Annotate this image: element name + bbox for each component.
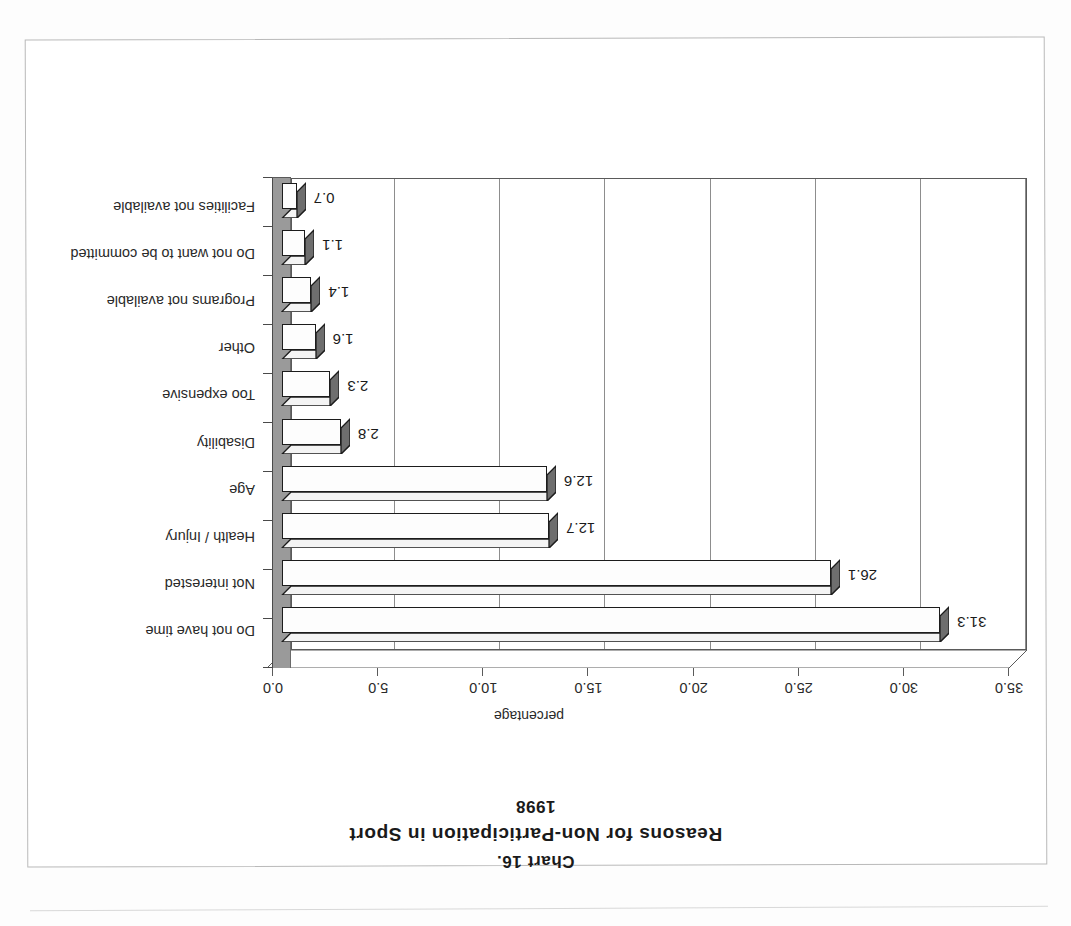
x-axis-tick-mark-3 [587, 668, 588, 676]
category-label-1: Not interested [165, 576, 255, 592]
bar-end-face-1 [831, 560, 840, 595]
bar-end-face-4 [341, 419, 350, 454]
rotated-page-content: Chart 16. Reasons for Non-Participation … [0, 0, 1071, 926]
category-tick-4 [263, 422, 272, 423]
x-axis-title: percentage [259, 708, 799, 724]
x-axis-tick-2: 10.0 [459, 680, 507, 696]
bar-value-label-2: 12.7 [566, 520, 610, 537]
bar-front-face-1 [282, 560, 831, 586]
category-tick-9 [263, 177, 272, 178]
category-tick-0 [263, 618, 272, 619]
bar-front-face-6 [282, 324, 316, 350]
bar-value-label-8: 1.1 [322, 237, 366, 254]
category-label-5: Too expensive [162, 387, 255, 403]
x-axis-tick-7: 35.0 [985, 680, 1033, 696]
category-label-9: Facilities not available [113, 199, 255, 215]
chart-3d-top-plane [277, 650, 1027, 668]
x-axis-tick-4: 20.0 [670, 680, 718, 696]
x-axis-tick-mark-4 [693, 668, 694, 676]
bar-value-label-3: 12.6 [564, 473, 608, 490]
x-axis-tick-mark-0 [272, 668, 273, 676]
bar-front-face-2 [282, 513, 549, 539]
chart-number-label: Chart 16. [0, 848, 1071, 874]
category-tick-1 [263, 569, 272, 570]
bar-7[interactable] [282, 286, 320, 312]
bar-1[interactable] [282, 569, 840, 595]
category-tick-6 [263, 324, 272, 325]
bar-value-label-1: 26.1 [848, 567, 892, 584]
bar-front-face-3 [282, 466, 547, 492]
bar-end-face-5 [330, 371, 339, 406]
bar-value-label-7: 1.4 [328, 284, 372, 301]
bar-3[interactable] [282, 475, 556, 501]
grid-line-7 [1025, 179, 1026, 649]
x-axis-tick-mark-1 [377, 668, 378, 676]
category-label-3: Age [229, 482, 255, 498]
bar-end-face-0 [940, 607, 949, 642]
x-axis-tick-5: 25.0 [775, 680, 823, 696]
category-tick-5 [263, 373, 272, 374]
bar-front-face-0 [282, 607, 940, 633]
bar-2[interactable] [282, 522, 558, 548]
bar-end-face-8 [305, 230, 314, 265]
category-label-2: Health / Injury [166, 529, 255, 545]
bar-front-face-5 [282, 371, 330, 397]
bar-0[interactable] [282, 616, 949, 642]
category-tick-3 [263, 471, 272, 472]
category-axis-line [272, 178, 273, 668]
bar-end-face-6 [316, 324, 325, 359]
bar-6[interactable] [282, 333, 325, 359]
chart-plot-area: percentage 0.05.010.015.020.025.030.035.… [42, 114, 1027, 714]
category-tick-top [263, 667, 272, 668]
bar-front-face-7 [282, 277, 311, 303]
bar-end-face-2 [549, 513, 558, 548]
bar-9[interactable] [282, 192, 306, 218]
bar-value-label-4: 2.8 [358, 426, 402, 443]
bar-top-face-0 [282, 633, 949, 642]
x-axis-tick-mark-7 [1008, 668, 1009, 676]
chart-3d-side-wall-base [271, 177, 291, 178]
category-label-7: Programs not available [107, 293, 255, 309]
bar-end-face-3 [547, 466, 556, 501]
bar-value-label-6: 1.6 [333, 331, 377, 348]
bar-top-face-1 [282, 586, 840, 595]
bar-top-face-3 [282, 492, 556, 501]
chart-title-block: Chart 16. Reasons for Non-Participation … [0, 793, 1071, 874]
bar-value-label-5: 2.3 [347, 378, 391, 395]
bar-end-face-9 [297, 183, 306, 218]
category-label-8: Do not want to be committed [70, 246, 255, 262]
category-tick-2 [263, 520, 272, 521]
category-label-4: Disability [197, 435, 255, 451]
category-label-0: Do not have time [145, 623, 255, 639]
x-axis-tick-mark-6 [903, 668, 904, 676]
bar-top-face-2 [282, 539, 558, 548]
x-axis-tick-0: 0.0 [249, 680, 297, 696]
x-axis-tick-1: 5.0 [354, 680, 402, 696]
scanned-page: Chart 16. Reasons for Non-Participation … [0, 0, 1071, 926]
bar-5[interactable] [282, 380, 339, 406]
bar-8[interactable] [282, 239, 314, 265]
x-axis-tick-6: 30.0 [880, 680, 928, 696]
page-title: Reasons for Non-Participation in Sport [0, 820, 1071, 848]
category-tick-7 [263, 275, 272, 276]
bar-front-face-8 [282, 230, 305, 256]
x-axis-tick-mark-2 [482, 668, 483, 676]
x-axis-tick-3: 15.0 [564, 680, 612, 696]
bar-4[interactable] [282, 428, 350, 454]
bar-front-face-4 [282, 419, 341, 445]
bar-front-face-9 [282, 183, 297, 209]
category-label-6: Other [219, 340, 255, 356]
chart-year-label: 1998 [0, 793, 1071, 820]
bar-value-label-9: 0.7 [314, 190, 358, 207]
x-axis-tick-mark-5 [798, 668, 799, 676]
category-tick-8 [263, 226, 272, 227]
bar-end-face-7 [311, 277, 320, 312]
bar-value-label-0: 31.3 [957, 614, 1001, 631]
grid-line-6 [920, 179, 921, 649]
